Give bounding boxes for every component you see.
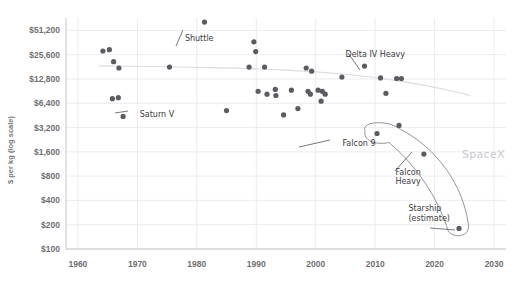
x-tick-label: 1970 [128, 259, 147, 269]
y-tick-label: $1,600 [34, 147, 60, 157]
data-point [253, 49, 258, 54]
y-tick-label: $400 [41, 195, 60, 205]
x-tick-label: 2000 [306, 259, 325, 269]
data-point [121, 114, 126, 119]
y-tick-label: $12,800 [29, 74, 60, 84]
data-points [100, 20, 461, 231]
y-tick-label: $3,200 [34, 123, 60, 133]
y-axis-tick-labels: $100$200$400$800$1,600$3,200$6,400$12,80… [29, 25, 60, 254]
data-point [308, 92, 313, 97]
data-point [264, 92, 269, 97]
cost-trend-line [99, 66, 471, 96]
y-tick-label: $25,600 [29, 50, 60, 60]
data-point [262, 65, 267, 70]
x-tick-label: 1960 [68, 259, 87, 269]
data-point [289, 88, 294, 93]
x-tick-label: 2010 [366, 259, 385, 269]
launch-cost-chart: $100$200$400$800$1,600$3,200$6,400$12,80… [0, 0, 520, 281]
data-point [319, 99, 324, 104]
annotation-label: Delta IV Heavy [346, 50, 406, 59]
data-point [309, 69, 314, 74]
data-point [251, 39, 256, 44]
y-tick-label: $200 [41, 220, 60, 230]
data-point [383, 91, 388, 96]
data-point [394, 76, 399, 81]
x-axis-tick-labels: 19601970198019902000201020202030 [68, 259, 503, 269]
annotation-label: SpaceX [462, 148, 505, 161]
annotation-label: Heavy [395, 177, 421, 186]
data-point [362, 64, 367, 69]
y-tick-label: $800 [41, 171, 60, 181]
data-point [281, 112, 286, 117]
chart-annotations: ShuttleSaturn VDelta IV HeavyFalcon 9Fal… [140, 34, 505, 223]
data-point [295, 106, 300, 111]
data-point [378, 75, 383, 80]
annotation-label: (estimate) [409, 214, 450, 223]
x-tick-label: 1980 [187, 259, 206, 269]
annotation-label: Shuttle [185, 34, 214, 43]
annotation-label: Starship [409, 204, 442, 213]
data-point [304, 65, 309, 70]
data-point [339, 75, 344, 80]
y-tick-label: $51,200 [29, 25, 60, 35]
x-tick-label: 2030 [485, 259, 504, 269]
data-point [116, 65, 121, 70]
data-point [202, 20, 207, 25]
data-point [167, 65, 172, 70]
data-point [323, 92, 328, 97]
x-tick-label: 2020 [425, 259, 444, 269]
data-point [399, 76, 404, 81]
y-axis-title: $ per kg (log scale) [6, 116, 15, 184]
data-point [256, 89, 261, 94]
data-point [396, 123, 401, 128]
x-tick-label: 1990 [247, 259, 266, 269]
data-point [111, 59, 116, 64]
data-point [456, 226, 461, 231]
data-point [273, 93, 278, 98]
annotation-label: Falcon 9 [343, 139, 376, 148]
data-point [110, 96, 115, 101]
data-point [273, 87, 278, 92]
data-point [374, 131, 379, 136]
y-tick-label: $100 [41, 244, 60, 254]
chart-canvas: $100$200$400$800$1,600$3,200$6,400$12,80… [0, 0, 520, 281]
data-point [224, 108, 229, 113]
data-point [421, 152, 426, 157]
y-tick-label: $6,400 [34, 98, 60, 108]
annotation-label: Saturn V [140, 110, 175, 119]
data-point [247, 65, 252, 70]
data-point [100, 48, 105, 53]
data-point [107, 47, 112, 52]
data-point [116, 95, 121, 100]
annotation-label: Falcon [395, 168, 420, 177]
